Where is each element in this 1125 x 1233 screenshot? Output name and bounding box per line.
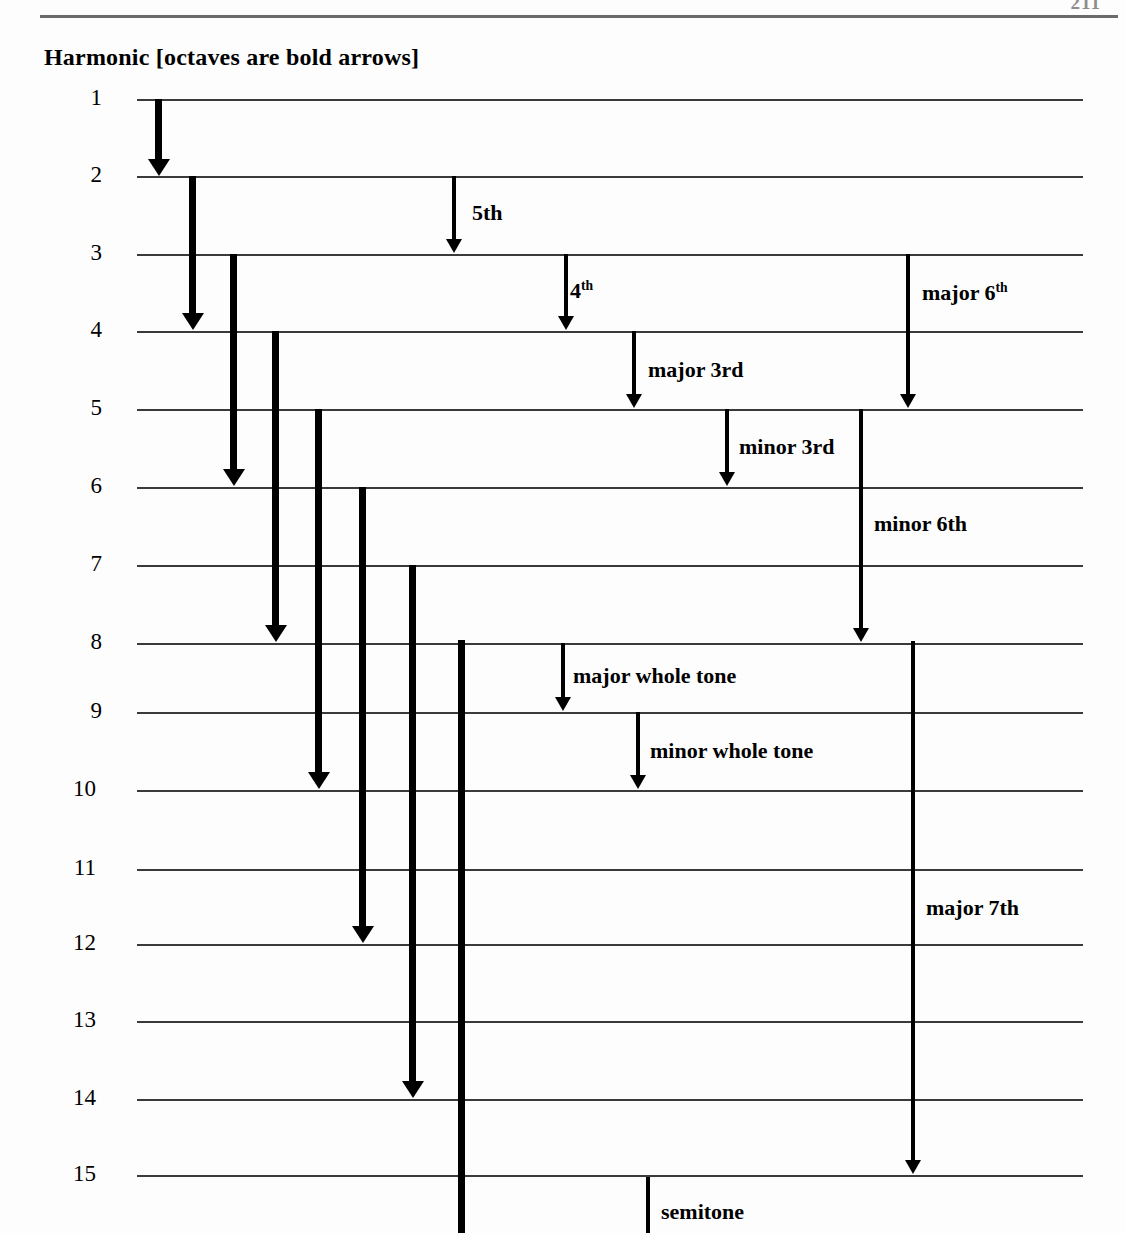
harmonic-line-13 xyxy=(137,1021,1083,1023)
interval-label-semitone: semitone xyxy=(661,1199,744,1225)
harmonic-line-3 xyxy=(137,254,1083,256)
interval-label-fourth-sup: th xyxy=(581,278,593,293)
harmonic-line-10 xyxy=(137,790,1083,792)
page-number: 211 xyxy=(1071,0,1101,14)
harmonic-number-13: 13 xyxy=(52,1007,96,1033)
harmonic-number-9: 9 xyxy=(58,698,102,724)
interval-label-minor-whole-tone: minor whole tone xyxy=(650,738,813,764)
harmonic-number-2: 2 xyxy=(58,162,102,188)
interval-label-fourth: 4th xyxy=(570,278,593,304)
harmonic-number-10: 10 xyxy=(52,776,96,802)
harmonic-number-1: 1 xyxy=(58,85,102,111)
harmonic-number-5: 5 xyxy=(58,395,102,421)
harmonic-line-12 xyxy=(137,944,1083,946)
interval-label-major-third: major 3rd xyxy=(648,357,744,383)
interval-label-major-sixth-sup: th xyxy=(996,280,1008,295)
harmonic-line-15 xyxy=(137,1175,1083,1177)
harmonic-number-4: 4 xyxy=(58,317,102,343)
harmonic-number-14: 14 xyxy=(52,1085,96,1111)
interval-label-fourth-base: 4 xyxy=(570,278,581,303)
figure-title: Harmonic [octaves are bold arrows] xyxy=(44,44,419,71)
harmonic-line-11 xyxy=(137,869,1083,871)
harmonic-line-14 xyxy=(137,1099,1083,1101)
harmonic-number-12: 12 xyxy=(52,930,96,956)
interval-label-major-sixth: major 6th xyxy=(922,280,1008,306)
harmonic-number-11: 11 xyxy=(52,855,96,881)
harmonic-line-8 xyxy=(137,643,1083,645)
interval-label-major-whole-tone: major whole tone xyxy=(573,663,736,689)
interval-label-major-seventh: major 7th xyxy=(926,895,1019,921)
figure-page: 211 Harmonic [octaves are bold arrows] 1… xyxy=(0,0,1125,1233)
harmonic-number-8: 8 xyxy=(58,629,102,655)
harmonic-line-9 xyxy=(137,712,1083,714)
header-rule xyxy=(40,15,1118,18)
harmonic-number-15: 15 xyxy=(52,1161,96,1187)
interval-label-fifth: 5th xyxy=(472,200,503,226)
harmonic-number-3: 3 xyxy=(58,240,102,266)
harmonic-number-6: 6 xyxy=(58,473,102,499)
interval-label-minor-sixth: minor 6th xyxy=(874,511,967,537)
harmonic-line-1 xyxy=(137,99,1083,101)
harmonic-number-7: 7 xyxy=(58,551,102,577)
interval-label-minor-third: minor 3rd xyxy=(739,434,835,460)
harmonic-line-2 xyxy=(137,176,1083,178)
interval-label-major-sixth-base: major 6 xyxy=(922,280,996,305)
